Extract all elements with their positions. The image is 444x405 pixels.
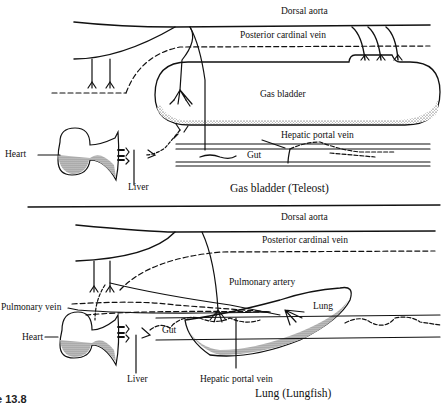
heart-outline-2: [60, 312, 119, 365]
label-gut: Gut: [247, 151, 261, 161]
label-dorsal-aorta: Dorsal aorta: [281, 7, 328, 17]
label-pulmonary-artery: Pulmonary artery: [229, 278, 295, 288]
posterior-cardinal-vein-line: [126, 46, 430, 93]
label-liver: Liver: [128, 183, 149, 193]
label-hepatic-portal-vein-2: Hepatic portal vein: [200, 375, 273, 385]
label-heart-2: Heart: [22, 333, 43, 343]
label-posterior-cardinal-vein: Posterior cardinal vein: [240, 31, 326, 41]
label-dorsal-aorta-2: Dorsal aorta: [281, 213, 328, 223]
caption-teleost: Gas bladder (Teleost): [230, 183, 329, 195]
lungfish-panel: [45, 225, 440, 373]
label-gut-2: Gut: [162, 326, 176, 336]
label-hepatic-portal-vein: Hepatic portal vein: [281, 131, 354, 141]
label-posterior-cardinal-vein-2: Posterior cardinal vein: [262, 236, 348, 246]
label-gas-bladder: Gas bladder: [260, 90, 306, 100]
dorsal-aorta-line-2: [76, 225, 435, 232]
figure-number: e 13.8: [0, 394, 27, 405]
dorsal-aorta-line: [74, 22, 430, 27]
label-liver-2: Liver: [127, 375, 148, 385]
label-lung: Lung: [313, 302, 333, 312]
caption-lungfish: Lung (Lungfish): [255, 388, 331, 400]
teleost-panel: [38, 22, 440, 185]
panel-divider: [28, 205, 440, 207]
label-heart: Heart: [5, 150, 26, 160]
label-pulmonary-vein: Pulmonary vein: [1, 303, 61, 313]
